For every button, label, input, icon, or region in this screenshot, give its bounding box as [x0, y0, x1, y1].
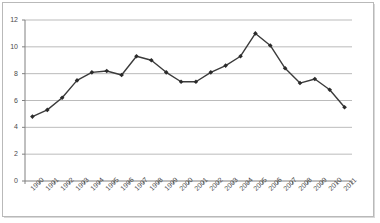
y-axis-tick-label: 8 [2, 70, 18, 77]
data-line [32, 33, 344, 116]
plot-area [0, 0, 380, 223]
y-axis-tick-label: 0 [2, 177, 18, 184]
y-axis-tick-label: 2 [2, 150, 18, 157]
data-point [104, 69, 109, 74]
data-point [30, 114, 35, 119]
y-axis-tick-label: 12 [2, 16, 18, 23]
y-axis-tick-label: 6 [2, 97, 18, 104]
line-chart: 024681012 199019911992199319941995199619… [0, 0, 380, 223]
y-axis-tick-label: 10 [2, 43, 18, 50]
y-axis-tick-label: 4 [2, 123, 18, 130]
